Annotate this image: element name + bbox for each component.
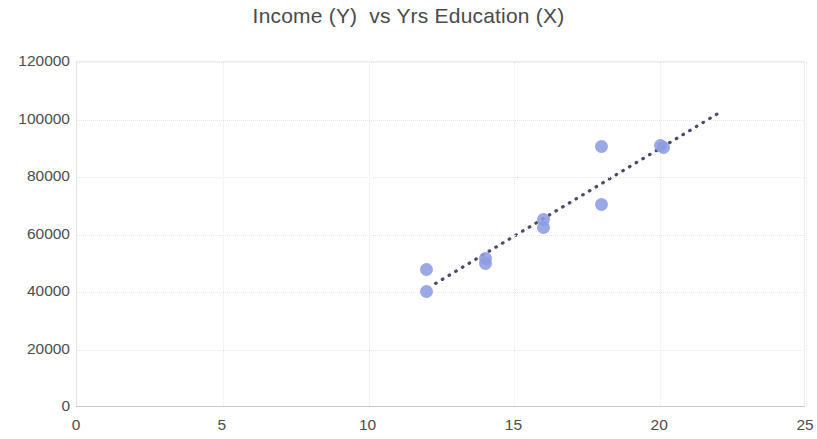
- chart-container: Income (Y) vs Yrs Education (X) 02000040…: [0, 0, 817, 439]
- x-axis-tick-label: 15: [505, 416, 522, 434]
- gridline-vertical: [369, 62, 370, 406]
- x-axis-tick-label: 0: [72, 416, 81, 434]
- data-point: [479, 257, 492, 270]
- gridline-horizontal: [77, 350, 804, 351]
- gridline-horizontal: [77, 292, 804, 293]
- gridline-horizontal: [77, 177, 804, 178]
- gridline-vertical: [514, 62, 515, 406]
- x-axis-tick-label: 25: [796, 416, 813, 434]
- data-point: [420, 285, 433, 298]
- y-axis-tick-label: 20000: [4, 340, 70, 358]
- data-point: [420, 263, 433, 276]
- gridline-vertical: [223, 62, 224, 406]
- gridline-horizontal: [77, 62, 804, 63]
- gridline-horizontal: [77, 120, 804, 121]
- data-point: [657, 141, 670, 154]
- x-axis-line: [76, 406, 805, 407]
- chart-title: Income (Y) vs Yrs Education (X): [0, 4, 817, 28]
- y-axis-tick-label: 120000: [4, 52, 70, 70]
- y-axis-labels: 020000400006000080000100000120000: [0, 0, 70, 439]
- x-axis-tick-label: 5: [217, 416, 226, 434]
- gridline-vertical: [660, 62, 661, 406]
- plot-area: [76, 61, 805, 406]
- x-axis-tick-label: 20: [651, 416, 668, 434]
- data-point: [537, 221, 550, 234]
- x-axis-tick-label: 10: [359, 416, 376, 434]
- gridline-horizontal: [77, 235, 804, 236]
- y-axis-tick-label: 100000: [4, 110, 70, 128]
- gridline-vertical: [806, 62, 807, 406]
- y-axis-tick-label: 0: [4, 397, 70, 415]
- y-axis-tick-label: 80000: [4, 167, 70, 185]
- y-axis-tick-label: 60000: [4, 225, 70, 243]
- y-axis-tick-label: 40000: [4, 282, 70, 300]
